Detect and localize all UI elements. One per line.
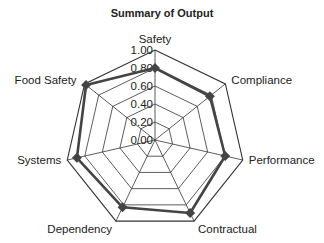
tick-label: 0.20 — [131, 116, 153, 128]
category-label: Food Safety — [15, 74, 77, 86]
category-label: Dependency — [47, 223, 112, 235]
tick-label: 1.00 — [131, 44, 153, 56]
radial-tick-labels: 0.000.200.400.600.801.00 — [131, 44, 153, 146]
tick-label: 0.40 — [131, 98, 153, 110]
category-label: Compliance — [231, 74, 292, 86]
grid-spoke — [155, 140, 194, 221]
radar-chart: 0.000.200.400.600.801.00 SafetyComplianc… — [0, 0, 324, 243]
category-label: Performance — [249, 154, 315, 166]
radar-spokes — [67, 50, 242, 221]
category-label: Systems — [17, 154, 61, 166]
category-label: Contractual — [198, 223, 257, 235]
tick-label: 0.60 — [131, 80, 153, 92]
category-label: Safety — [139, 33, 172, 45]
tick-label: 0.00 — [131, 134, 153, 146]
